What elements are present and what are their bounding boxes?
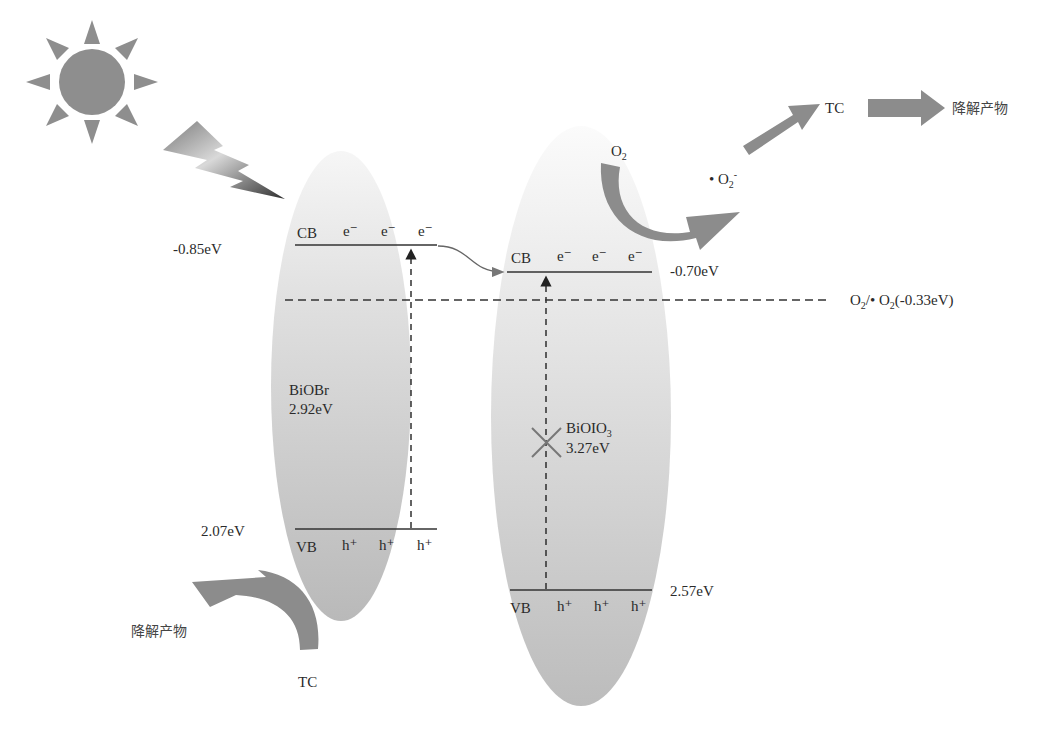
lightning-icon <box>163 121 285 199</box>
biobr-vb-potential: 2.07eV <box>201 524 245 539</box>
bioio3-vb-potential: 2.57eV <box>670 584 714 599</box>
hole: h⁺ <box>594 599 609 614</box>
biobr-vb-label: VB <box>296 540 317 555</box>
cb-label: CB <box>297 225 317 241</box>
bioio3-cb-label: CB <box>511 251 531 266</box>
product-bottom-label: 降解产物 <box>131 624 187 638</box>
hole: h⁺ <box>342 538 357 553</box>
electron: e⁻ <box>592 249 607 264</box>
superoxide-to-tc-arrow <box>743 104 820 155</box>
tc-to-products-arrow <box>868 90 945 126</box>
bioio3-band-gap: 3.27eV <box>566 441 610 456</box>
electron: e⁻ <box>381 224 396 239</box>
hole: h⁺ <box>417 538 432 553</box>
electron: e⁻ <box>418 224 433 239</box>
superoxide-label: • O2- <box>709 170 737 190</box>
hole: h⁺ <box>557 599 572 614</box>
biobr-band-gap: 2.92eV <box>289 402 333 417</box>
hole: h⁺ <box>379 538 394 553</box>
biobr-cb-potential: -0.85eV <box>173 242 222 257</box>
electron: e⁻ <box>557 249 572 264</box>
product-top-label: 降解产物 <box>952 101 1008 115</box>
sun-icon <box>26 20 158 144</box>
o2-label: O2 <box>611 144 627 162</box>
bioio3-name: BiOIO3 <box>566 421 612 439</box>
bioio3-vb-label: VB <box>510 601 531 616</box>
bioio3-ellipse <box>491 126 671 706</box>
tc-bottom-label: TC <box>298 675 317 690</box>
electron: e⁻ <box>628 249 643 264</box>
electron: e⁻ <box>343 224 358 239</box>
bioio3-cb-potential: -0.70eV <box>670 264 719 279</box>
biobr-name: BiOBr <box>289 383 329 398</box>
reference-level-label: O2/• O2(-0.33eV) <box>850 293 954 311</box>
hole: h⁺ <box>631 599 646 614</box>
tc-top-label: TC <box>825 101 844 116</box>
bottom-degradation-arrow <box>192 570 318 650</box>
biobr-cb-label: CB <box>297 226 317 241</box>
band-diagram: CB e⁻ e⁻ e⁻ -0.85eV BiOBr 2.92eV 2.07eV … <box>0 0 1038 734</box>
